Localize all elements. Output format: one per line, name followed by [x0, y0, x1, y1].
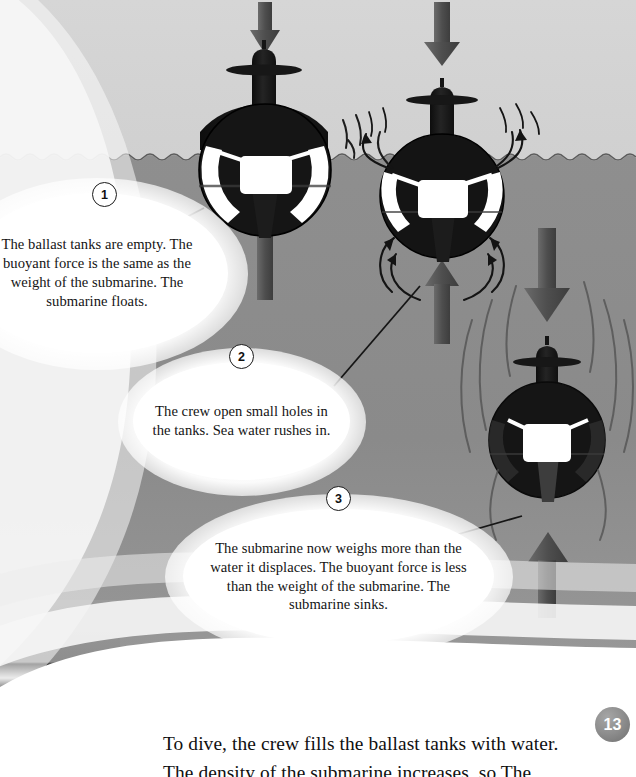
body-paragraph: To dive, the crew fills the ballast tank… — [163, 730, 623, 777]
callout-bubble-3: The submarine now weighs more than the w… — [183, 509, 494, 644]
callout-text-2: The crew open small holes in the tanks. … — [142, 402, 342, 440]
page-canvas: The ballast tanks are empty. The buoyant… — [0, 0, 636, 777]
callout-text-1: The ballast tanks are empty. The buoyant… — [0, 235, 205, 311]
crew-compartment-2 — [418, 180, 468, 218]
callout-text-3: The submarine now weighs more than the w… — [197, 539, 480, 615]
body-line-1: To dive, the crew fills the ballast tank… — [163, 730, 623, 759]
callout-bubble-2: The crew open small holes in the tanks. … — [133, 362, 350, 480]
step-badge-3: 3 — [326, 486, 351, 511]
crew-compartment-3 — [523, 424, 571, 462]
step-badge-1: 1 — [92, 182, 117, 207]
page-number-badge: 13 — [595, 707, 630, 742]
crew-compartment-1 — [240, 156, 292, 194]
body-line-2: The density of the submarine increases, … — [163, 759, 623, 777]
step-badge-2: 2 — [229, 344, 254, 369]
